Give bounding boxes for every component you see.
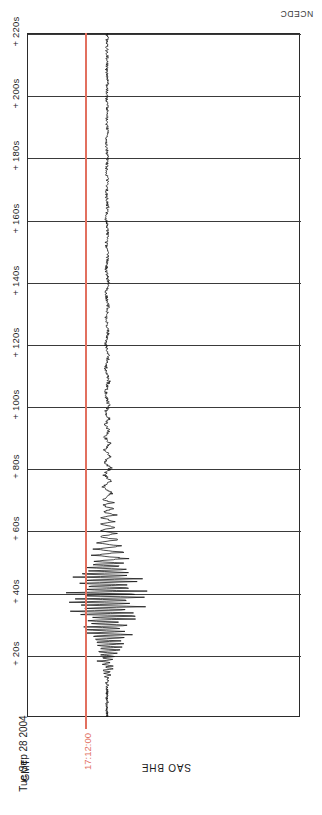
axis-tick-label: + 220s (10, 1, 21, 63)
seismogram-page: NCEDC + 220s+ 200s+ 180s+ 160s+ 140s+ 12… (0, 0, 322, 815)
time-marker-line (85, 33, 87, 717)
axis-tick-label: + 180s (10, 125, 21, 187)
channel-label: SAO BHE (141, 762, 191, 773)
axis-tick-label: + 60s (10, 498, 21, 560)
axis-tick-label: + 40s (10, 560, 21, 622)
axis-tick-label: + 160s (10, 187, 21, 249)
axis-tick-label: + 100s (10, 374, 21, 436)
waveform-trace (27, 33, 300, 717)
time-marker-label: 17:12:00 (82, 721, 93, 783)
axis-tick-label: + 20s (10, 622, 21, 684)
axis-tick-label: + 140s (10, 249, 21, 311)
axis-tick-label: + 120s (10, 311, 21, 373)
waveform-path (66, 33, 147, 717)
timezone-label: GMT (20, 741, 31, 801)
axis-tick-label: + 200s (10, 63, 21, 125)
axis-tick-label: + 80s (10, 436, 21, 498)
agency-label: NCEDC (280, 9, 313, 19)
